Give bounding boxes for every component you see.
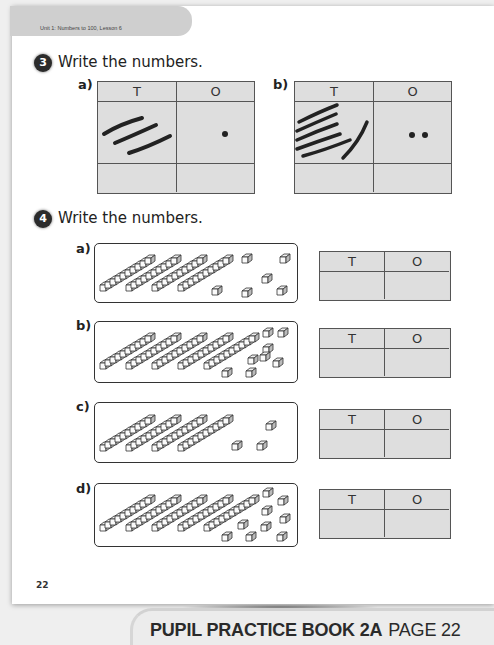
question-4-title: Write the numbers. (58, 209, 203, 227)
q4-part-b-label: b) (76, 318, 91, 333)
tens-header: T (320, 329, 385, 349)
q4d-tens-answer[interactable] (320, 510, 385, 537)
base-ten-blocks-icon (95, 484, 295, 544)
q4c-base-ten-blocks (94, 402, 298, 463)
ones-header: O (385, 329, 449, 349)
tens-strokes-icon (98, 102, 177, 164)
q4c-place-value-table: T O (319, 409, 451, 459)
tens-representation (295, 102, 374, 164)
ones-representation (374, 102, 451, 164)
q3b-place-value-table: T O (294, 81, 452, 194)
ones-header: O (385, 252, 449, 272)
q4d-place-value-table: T O (319, 489, 451, 539)
q3b-tens-answer[interactable] (295, 164, 374, 192)
unit-lesson-label: Unit 1: Numbers to 100, Lesson 6 (40, 25, 122, 31)
tens-header: T (320, 252, 385, 272)
page-number: 22 (36, 580, 49, 590)
q4a-tens-answer[interactable] (320, 272, 385, 299)
q4a-ones-answer[interactable] (385, 272, 449, 299)
book-title: PUPIL PRACTICE BOOK 2APAGE 22 (150, 620, 461, 641)
ones-header: O (374, 82, 451, 102)
page-label: PAGE 22 (388, 620, 460, 640)
q3a-ones-answer[interactable] (177, 164, 254, 192)
q4c-tens-answer[interactable] (320, 430, 385, 457)
book-title-text: PUPIL PRACTICE BOOK 2A (150, 620, 382, 640)
tens-header: T (320, 410, 385, 430)
q3a-tens-answer[interactable] (98, 164, 177, 192)
q4b-base-ten-blocks (94, 321, 298, 383)
header-tab (10, 6, 192, 36)
q3a-place-value-table: T O (97, 81, 255, 194)
q4-part-a-label: a) (76, 241, 91, 256)
ones-dots-icon (177, 102, 254, 164)
q3b-ones-answer[interactable] (374, 164, 451, 192)
ones-dots-icon (374, 102, 451, 164)
question-3-badge: 3 (34, 54, 52, 72)
tens-header: T (320, 490, 385, 510)
tens-representation (98, 102, 177, 164)
base-ten-blocks-icon (95, 403, 295, 460)
q4b-ones-answer[interactable] (385, 349, 449, 376)
base-ten-blocks-icon (95, 322, 295, 380)
q4b-place-value-table: T O (319, 328, 451, 378)
q4a-place-value-table: T O (319, 251, 451, 301)
ones-representation (177, 102, 254, 164)
question-4-badge: 4 (34, 210, 52, 228)
base-ten-blocks-icon (95, 244, 295, 300)
q4-part-d-label: d) (76, 481, 91, 496)
q4d-ones-answer[interactable] (385, 510, 449, 537)
ones-header: O (177, 82, 254, 102)
question-3-title: Write the numbers. (58, 53, 203, 71)
q4c-ones-answer[interactable] (385, 430, 449, 457)
q4b-tens-answer[interactable] (320, 349, 385, 376)
q4a-base-ten-blocks (94, 243, 298, 303)
tens-header: T (295, 82, 374, 102)
tens-header: T (98, 82, 177, 102)
q4d-base-ten-blocks (94, 483, 298, 547)
ones-header: O (385, 410, 449, 430)
q4-part-c-label: c) (76, 399, 90, 414)
q3-part-a-label: a) (78, 77, 93, 92)
ones-header: O (385, 490, 449, 510)
q3-part-b-label: b) (273, 77, 288, 92)
tens-strokes-icon (295, 102, 374, 164)
